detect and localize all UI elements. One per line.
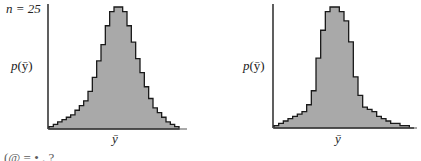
histogram-right	[274, 7, 414, 128]
y-axis-label-left: p(ȳ)	[11, 58, 33, 74]
x-axis-label-left: ȳ	[112, 131, 118, 147]
y-label-arg: (ȳ)	[250, 58, 265, 73]
histogram-figure	[0, 0, 421, 161]
histogram-left	[49, 7, 179, 129]
histogram-panel-right	[273, 4, 417, 128]
cropped-caption-fragment: (@ = • . ?	[4, 150, 54, 161]
y-label-arg: (ȳ)	[18, 58, 33, 73]
sample-size-annotation: n = 25	[6, 1, 41, 17]
x-axis-label-right: ȳ	[335, 131, 341, 147]
y-axis-label-right: p(ȳ)	[243, 58, 265, 74]
histogram-panel-left	[48, 4, 187, 129]
